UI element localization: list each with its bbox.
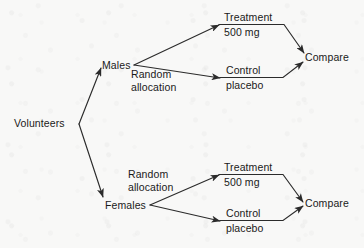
note-females-random-allocation: Random allocation [128,168,173,193]
node-volunteers: Volunteers [14,117,65,129]
edge-volunteers-to-females [79,124,103,197]
trial-flow-diagram: Volunteers Males Random allocation Treat… [0,0,364,248]
arm-males-control-label: Control [226,64,261,76]
node-females: Females [105,199,146,211]
arm-females-treatment-dose: 500 mg [224,176,260,188]
edge-volunteers-to-males [79,68,101,124]
arm-males-treatment-dose: 500 mg [224,26,260,38]
arm-females-control-detail: placebo [226,222,263,234]
note-females-random-allocation-line1: Random [128,168,168,180]
arm-females-control-label: Control [226,207,261,219]
note-males-random-allocation-line2: allocation [131,81,176,93]
note-females-random-allocation-line2: allocation [128,181,173,193]
edge-females-to-control [150,205,220,221]
note-males-random-allocation-line1: Random [131,68,171,80]
node-males-compare: Compare [305,51,349,63]
node-females-compare: Compare [305,197,349,209]
arm-males-control-detail: placebo [226,79,263,91]
edge-males-to-treatment [134,25,219,65]
arm-females-treatment-label: Treatment [224,161,272,173]
note-males-random-allocation: Random allocation [131,68,176,93]
node-males: Males [102,59,131,71]
arm-males-treatment-label: Treatment [224,11,272,23]
